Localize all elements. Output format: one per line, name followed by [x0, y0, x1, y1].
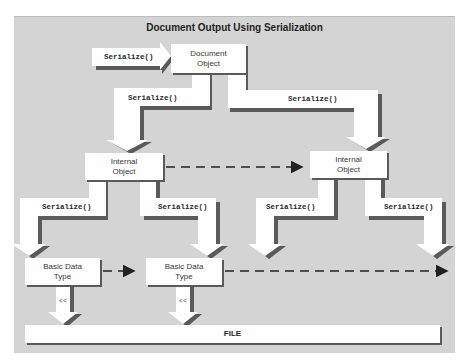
edge-label-internal-right-left: Serialize()	[266, 203, 316, 211]
edge-label-doc-internal-left: Serialize()	[128, 94, 178, 102]
document-object-node: Document Object	[171, 44, 246, 73]
internal-right-right-arrow	[365, 178, 454, 259]
doc-to-internal-right-arrow	[228, 73, 390, 152]
file-node: FILE	[25, 325, 440, 343]
basic-left-to-file-arrow	[48, 285, 82, 327]
basic-data-type-left-node: Basic Data Type	[25, 258, 100, 285]
stream-op-middle: <<	[179, 297, 187, 304]
basic-middle-to-file-arrow	[168, 285, 202, 327]
input-serialize-label: Serialize()	[104, 53, 154, 61]
edge-label-internal-left-basic-left: Serialize()	[42, 203, 92, 211]
edge-label-doc-internal-right: Serialize()	[288, 95, 338, 103]
internal-right-left-arrow	[248, 178, 338, 259]
edge-label-internal-left-basic-middle: Serialize()	[158, 203, 208, 211]
basic-data-type-middle-node: Basic Data Type	[146, 258, 222, 285]
file-label: FILE	[25, 329, 440, 338]
internal-left-to-basic-left-arrow	[12, 180, 108, 259]
internal-object-right-node: Internal Object	[310, 151, 387, 178]
edge-label-internal-right-right: Serialize()	[384, 203, 434, 211]
internal-left-to-basic-middle-arrow	[140, 180, 228, 259]
stream-op-left: <<	[59, 297, 67, 304]
doc-to-internal-left-arrow	[106, 73, 212, 154]
internal-object-left-node: Internal Object	[85, 153, 163, 180]
